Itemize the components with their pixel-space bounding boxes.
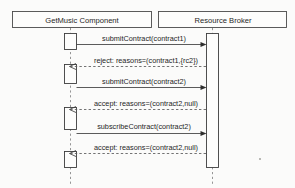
message-4-accept-reasons: accept: reasons=(contract2,null) — [70, 99, 207, 113]
message-3-label: submitContract(contract2) — [102, 77, 186, 86]
message-5-label: subscribeContract(contract2) — [97, 122, 191, 131]
sequence-diagram-canvas: GetMusic Component Resource Broker submi… — [0, 0, 295, 188]
message-6-label: accept: reasons=(contract2,null) — [94, 143, 198, 152]
message-3-submitcontract-contract2: submitContract(contract2) — [77, 77, 207, 90]
activation-bar-getmusic-1 — [65, 34, 77, 50]
message-4-label: accept: reasons=(contract2,null) — [94, 99, 198, 108]
message-1-label: submitContract(contract1) — [102, 34, 186, 43]
activation-bar-getmusic-3 — [65, 108, 77, 130]
message-2-label: reject: reasons=(contract1,{rc2}) — [94, 56, 198, 65]
message-5-subscribecontract-contract2: subscribeContract(contract2) — [77, 122, 207, 136]
message-1-submitcontract-contract1: submitContract(contract1) — [77, 34, 207, 47]
message-1-arrowhead — [201, 42, 207, 47]
message-3-arrowhead — [201, 85, 207, 90]
lifeline-label-broker: Resource Broker — [195, 16, 252, 25]
message-6-accept-reasons: accept: reasons=(contract2,null) — [70, 143, 207, 157]
lifeline-label-getmusic: GetMusic Component — [45, 16, 119, 25]
message-5-arrowhead — [201, 131, 207, 136]
scan-artifact-speck — [259, 158, 261, 160]
message-2-reject-reasons: reject: reasons=(contract1,{rc2}) — [70, 56, 207, 70]
activation-bar-broker-1 — [207, 34, 219, 168]
